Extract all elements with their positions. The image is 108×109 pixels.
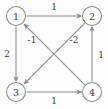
edge-weight-4-2: 1 bbox=[98, 50, 104, 60]
node-4[interactable]: 4 bbox=[83, 83, 102, 102]
edge-weight-2-3: -2 bbox=[70, 35, 79, 45]
node-1[interactable]: 1 bbox=[7, 7, 26, 26]
node-label-3: 3 bbox=[13, 87, 19, 98]
edge-weight-1-3: 2 bbox=[4, 49, 10, 59]
edge-1-to-3 bbox=[13, 27, 18, 83]
edge-weight-4-1: -1 bbox=[28, 35, 37, 45]
graph-canvas: 1 2 3 4 1 2 1 1 -1 -2 bbox=[0, 0, 108, 109]
node-label-4: 4 bbox=[89, 87, 95, 98]
edge-weight-3-4: 1 bbox=[51, 96, 57, 106]
node-label-2: 2 bbox=[89, 11, 95, 22]
edge-3-to-4 bbox=[27, 89, 83, 94]
directed-graph-figure: 1 2 3 4 1 2 1 1 -1 -2 bbox=[0, 0, 108, 109]
edge-weight-1-2: 1 bbox=[51, 2, 57, 12]
edge-4-to-2 bbox=[89, 26, 94, 82]
node-3[interactable]: 3 bbox=[7, 83, 26, 102]
edge-line-2-3 bbox=[26, 23, 85, 82]
node-label-1: 1 bbox=[13, 11, 19, 22]
node-2[interactable]: 2 bbox=[83, 7, 102, 26]
edge-1-to-2 bbox=[27, 13, 83, 18]
